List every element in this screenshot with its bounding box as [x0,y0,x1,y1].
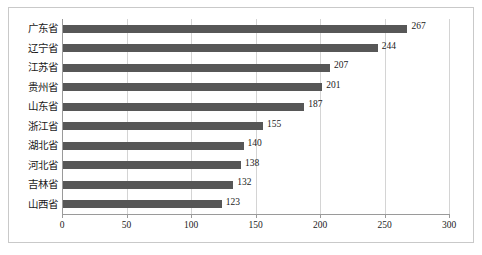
chart-frame: 广东省辽宁省江苏省贵州省山东省浙江省湖北省河北省吉林省山西省 267244207… [8,7,474,243]
bar-value-label: 187 [308,99,322,110]
x-axis-tick-label: 150 [236,219,276,231]
category-label: 河北省 [10,156,62,176]
bar[interactable] [63,200,222,208]
plot-area: 267244207201187155140138132123 [62,19,449,214]
x-axis-tick-label: 250 [365,219,405,231]
x-axis-tick-label: 300 [429,219,469,231]
bar[interactable] [63,83,322,91]
bar-row: 138 [62,156,449,176]
category-label: 吉林省 [10,175,62,195]
bar-row: 267 [62,19,449,39]
bar-value-label: 132 [237,177,251,188]
bar-value-label: 207 [334,60,348,71]
bar-row: 244 [62,39,449,59]
bar[interactable] [63,142,244,150]
category-label: 湖北省 [10,136,62,156]
bar-value-label: 140 [248,138,262,149]
x-axis-tick-label: 100 [171,219,211,231]
bar-value-label: 201 [326,80,340,91]
bar[interactable] [63,64,330,72]
bar[interactable] [63,122,263,130]
x-axis-tick [256,214,257,218]
bar[interactable] [63,103,304,111]
gridline [449,19,450,214]
bar[interactable] [63,44,378,52]
bar[interactable] [63,25,407,33]
x-axis-tick-label: 200 [300,219,340,231]
bar-value-label: 123 [226,197,240,208]
x-axis-tick [191,214,192,218]
bar-row: 155 [62,117,449,137]
x-axis-tick [62,214,63,218]
bar-value-label: 267 [411,21,425,32]
x-axis-tick [320,214,321,218]
bar-row: 123 [62,195,449,215]
category-label: 江苏省 [10,58,62,78]
category-label: 贵州省 [10,78,62,98]
bar[interactable] [63,181,233,189]
bar-row: 207 [62,58,449,78]
bar-value-label: 138 [245,158,259,169]
x-axis-tick [449,214,450,218]
category-axis: 广东省辽宁省江苏省贵州省山东省浙江省湖北省河北省吉林省山西省 [9,19,62,214]
x-axis-tick-label: 50 [107,219,147,231]
bar-row: 132 [62,175,449,195]
x-axis-tick [127,214,128,218]
bar-value-label: 244 [382,41,396,52]
bar-row: 140 [62,136,449,156]
bar-row: 187 [62,97,449,117]
category-label: 浙江省 [10,117,62,137]
category-label: 辽宁省 [10,39,62,59]
bar-row: 201 [62,78,449,98]
category-label: 广东省 [10,19,62,39]
x-axis-tick-label: 0 [42,219,82,231]
category-label: 山西省 [10,195,62,215]
x-axis-tick [385,214,386,218]
category-label: 山东省 [10,97,62,117]
bar-value-label: 155 [267,119,281,130]
bar[interactable] [63,161,241,169]
